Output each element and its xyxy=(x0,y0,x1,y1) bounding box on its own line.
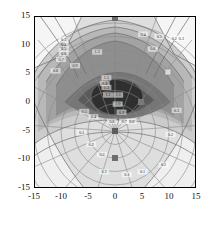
contour-label: 0.3 xyxy=(79,130,84,135)
contour-plot-figure: 0.30.40.50.60.70.80.91.21.51.41.31.11.11… xyxy=(0,0,214,225)
contour-label: 0.5 xyxy=(82,109,87,114)
x-tick-label: -10 xyxy=(47,192,75,201)
y-tick-label: 5 xyxy=(0,68,30,77)
contour-label: 0.3 xyxy=(174,108,179,113)
contour-label: 0.4 xyxy=(91,114,97,119)
contour-label: 1.5 xyxy=(104,75,109,80)
contour-label: 1.1 xyxy=(105,92,110,97)
contour-label: 1.0 xyxy=(115,101,120,106)
contour-label: 0.9 xyxy=(119,110,124,115)
x-tick-label: 0 xyxy=(101,192,129,201)
contour-label: 0.2 xyxy=(172,36,177,41)
contour-label: 0.8 xyxy=(109,119,114,124)
y-tick-label: -15 xyxy=(0,183,30,192)
contour-label: 0.8 xyxy=(53,68,58,73)
contour-label: 0.2 xyxy=(168,132,173,137)
contour-label: 0.6 xyxy=(150,46,155,51)
contour-label: 0.7 xyxy=(122,119,127,124)
marker-square[interactable] xyxy=(138,99,144,105)
contour-label: 0.6 xyxy=(61,51,66,56)
x-tick-label: -15 xyxy=(20,192,48,201)
contour-label: 1.3 xyxy=(104,85,109,90)
contour-label: 0.2 xyxy=(99,152,104,157)
y-tick-label: 0 xyxy=(0,97,30,106)
y-tick-label: -5 xyxy=(0,126,30,135)
contour-label: 0.4 xyxy=(140,32,146,37)
contour-label: 0.1 xyxy=(124,172,129,177)
contour-label: 0.2 xyxy=(89,142,94,147)
y-tick-label: 15 xyxy=(0,11,30,20)
contour-label: 0.7 xyxy=(58,57,63,62)
contour-label: 1.2 xyxy=(95,49,100,54)
y-tick-label: 10 xyxy=(0,40,30,49)
contour-label: 0.3 xyxy=(179,36,184,41)
marker-square[interactable] xyxy=(112,128,118,134)
x-tick-label: 5 xyxy=(128,192,156,201)
contour-plot-canvas: 0.30.40.50.60.70.80.91.21.51.41.31.11.11… xyxy=(34,16,196,188)
contour-label: 0.2 xyxy=(161,162,166,167)
contour-label: 0.9 xyxy=(72,63,77,68)
x-tick-label: -5 xyxy=(74,192,102,201)
x-tick-label: 15 xyxy=(182,192,210,201)
x-tick-label: 10 xyxy=(155,192,183,201)
marker-square[interactable] xyxy=(112,155,118,161)
contour-label: 0.6 xyxy=(129,119,134,124)
marker-square[interactable] xyxy=(165,69,171,75)
contour-label: 1.1 xyxy=(116,92,121,97)
contour-label: 0.1 xyxy=(102,169,107,174)
plot-area: 0.30.40.50.60.70.80.91.21.51.41.31.11.11… xyxy=(34,16,196,188)
contour-label: 0.5 xyxy=(157,34,162,39)
contour-label: 0.1 xyxy=(140,169,145,174)
y-tick-label: -10 xyxy=(0,154,30,163)
